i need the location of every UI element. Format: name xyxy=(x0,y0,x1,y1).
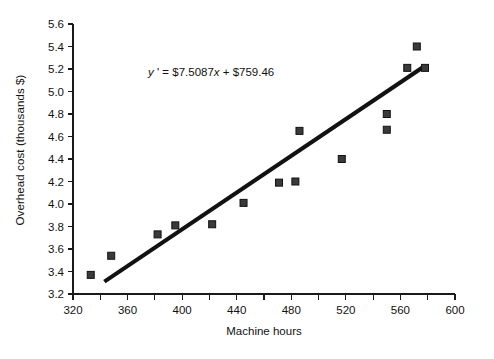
data-point-marker xyxy=(292,178,299,185)
y-axis-label: Overhead cost (thousands $) xyxy=(13,74,25,225)
regression-trend-line xyxy=(104,67,423,282)
y-tick-label: 4.4 xyxy=(48,153,65,165)
y-tick-label: 3.8 xyxy=(48,221,64,233)
x-tick-label: 600 xyxy=(445,304,464,316)
data-point-group xyxy=(87,43,428,278)
data-point-marker xyxy=(421,64,428,71)
x-tick-label: 480 xyxy=(282,304,301,316)
x-tick-label: 400 xyxy=(173,304,192,316)
data-point-marker xyxy=(404,64,411,71)
y-tick-label: 4.2 xyxy=(48,176,64,188)
data-point-marker xyxy=(209,221,216,228)
data-point-marker xyxy=(276,179,283,186)
y-tick-label: 3.2 xyxy=(48,288,64,300)
y-tick-label: 3.6 xyxy=(48,243,64,255)
y-tick-label-group: 3.23.43.63.84.04.24.44.64.85.05.25.45.6 xyxy=(48,18,65,300)
y-tick-label: 5.6 xyxy=(48,18,64,30)
data-point-marker xyxy=(383,111,390,118)
y-tick-label: 3.4 xyxy=(48,266,65,278)
scatter-plot-figure: Overhead cost (thousands $) 3.23.43.63.8… xyxy=(0,0,494,359)
y-tick-label: 5.4 xyxy=(48,41,65,53)
data-point-marker xyxy=(413,43,420,50)
y-tick-label: 4.8 xyxy=(48,108,64,120)
x-axis-label: Machine hours xyxy=(73,325,455,337)
data-point-marker xyxy=(154,231,161,238)
data-point-marker xyxy=(108,252,115,259)
data-point-marker xyxy=(383,126,390,133)
x-tick-label: 320 xyxy=(63,304,82,316)
data-point-marker xyxy=(172,222,179,229)
x-tick-label: 520 xyxy=(336,304,355,316)
x-tick-label-group: 320360400440480520560600 xyxy=(63,304,464,316)
x-tick-label: 440 xyxy=(227,304,246,316)
y-tick-label: 5.2 xyxy=(48,63,64,75)
data-point-marker xyxy=(87,271,94,278)
y-tick-label: 4.0 xyxy=(48,198,64,210)
x-tick-label: 360 xyxy=(118,304,137,316)
plot-canvas: 3.23.43.63.84.04.24.44.64.85.05.25.45.6 … xyxy=(0,0,494,359)
data-point-marker xyxy=(338,156,345,163)
regression-equation-annotation: y ' = $7.5087x + $759.46 xyxy=(147,66,274,78)
x-tick-label: 560 xyxy=(391,304,410,316)
y-axis-label-container: Overhead cost (thousands $) xyxy=(6,0,32,300)
y-tick-label: 5.0 xyxy=(48,86,64,98)
y-tick-mark-group xyxy=(68,24,73,294)
data-point-marker xyxy=(240,199,247,206)
x-tick-mark-group xyxy=(73,294,455,300)
y-tick-label: 4.6 xyxy=(48,131,64,143)
data-point-marker xyxy=(296,127,303,134)
